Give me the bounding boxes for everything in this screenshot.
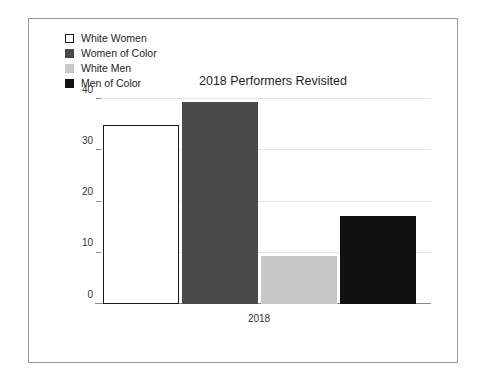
legend-item-white-women[interactable]: White Women bbox=[65, 32, 157, 45]
bar-women-of-color[interactable] bbox=[182, 102, 258, 304]
legend-label-white-women: White Women bbox=[81, 32, 147, 45]
y-tick-label: 30 bbox=[82, 134, 93, 145]
bar-white-men[interactable] bbox=[261, 256, 337, 304]
chart-frame: White Women Women of Color White Men Men… bbox=[28, 18, 458, 363]
y-tick-label: 20 bbox=[82, 186, 93, 197]
x-axis-label: 2018 bbox=[101, 313, 417, 324]
legend-swatch-white-men bbox=[65, 64, 74, 73]
y-tick-label: 0 bbox=[87, 288, 93, 299]
legend-label-women-of-color: Women of Color bbox=[81, 47, 157, 60]
y-tick-label: 10 bbox=[82, 237, 93, 248]
bar-white-women[interactable] bbox=[103, 125, 179, 304]
bar-group bbox=[101, 99, 431, 304]
legend-item-women-of-color[interactable]: Women of Color bbox=[65, 47, 157, 60]
chart-title: 2018 Performers Revisited bbox=[29, 74, 457, 88]
bar-men-of-color[interactable] bbox=[340, 216, 416, 304]
plot-area: 010203040 2018 bbox=[101, 99, 431, 304]
y-tick-label: 40 bbox=[82, 83, 93, 94]
legend-swatch-women-of-color bbox=[65, 49, 74, 58]
legend-swatch-white-women bbox=[65, 34, 74, 43]
